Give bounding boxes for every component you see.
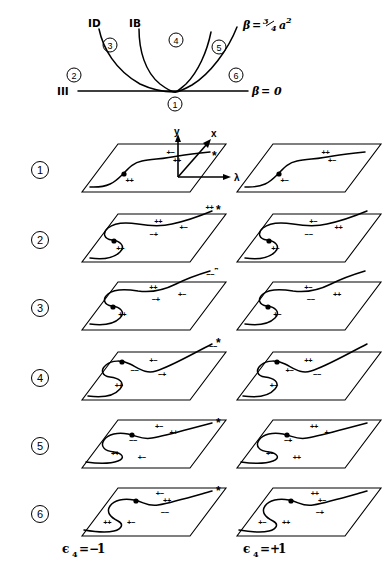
- plane-parallelogram: [82, 144, 226, 192]
- sign-label: ++: [116, 244, 125, 253]
- panel-row1-left: *+−++++: [60, 130, 230, 202]
- svg-text:1: 1: [278, 542, 286, 556]
- sign-label: +−: [258, 518, 267, 527]
- bifurcation-point: [274, 359, 279, 364]
- row-number-label: 3: [37, 302, 43, 314]
- plane-parallelogram: [237, 420, 381, 468]
- row-number-label: 4: [37, 372, 43, 384]
- svg-text:= 0: = 0: [261, 85, 282, 98]
- sign-label: −−: [131, 366, 140, 375]
- sign-label: +−: [178, 290, 187, 299]
- beta-upper-label: β = 3 4 a 2: [242, 15, 292, 33]
- svg-text:3: 3: [107, 41, 112, 51]
- svg-text:ϵ: ϵ: [243, 542, 250, 556]
- row-number-5: 5: [22, 428, 62, 468]
- plane-parallelogram: [237, 488, 381, 536]
- row-number-2: 2: [22, 222, 62, 262]
- boundary-label-b: IB: [129, 17, 141, 29]
- bifurcation-point: [110, 304, 115, 309]
- panel-row5-left: *+−++−−+++−: [60, 406, 230, 478]
- sign-label: ++: [115, 381, 124, 390]
- sign-label: −+: [152, 295, 161, 304]
- svg-text:ϵ: ϵ: [62, 542, 69, 556]
- sign-label: +−: [266, 449, 275, 458]
- panel-row5-right: +++−−++−++: [215, 406, 385, 478]
- sign-label: −+: [158, 370, 167, 379]
- row-number-6: 6: [22, 496, 62, 536]
- sign-label: ++: [334, 223, 343, 232]
- bifurcation-point: [133, 498, 138, 503]
- sign-label: −+: [150, 230, 159, 239]
- svg-text:4: 4: [271, 23, 277, 33]
- solution-curve: [241, 423, 367, 463]
- plane-parallelogram: [82, 420, 226, 468]
- svg-text:4: 4: [72, 549, 78, 559]
- sign-label: ++: [310, 422, 319, 431]
- panel-row1-right: +++−+−: [215, 130, 385, 202]
- svg-text:4: 4: [253, 549, 259, 559]
- sign-label: +−: [328, 156, 337, 165]
- footer-right: ϵ 4 =+ 1: [243, 542, 286, 559]
- region-label-4: 4: [169, 33, 183, 47]
- svg-text:=: =: [252, 19, 261, 32]
- solution-curve: [90, 271, 210, 325]
- sign-label: +−: [138, 453, 147, 462]
- svg-text:4: 4: [173, 36, 178, 46]
- sign-label: ++: [282, 518, 291, 527]
- row-number-label: 6: [37, 508, 43, 520]
- sign-label: ++: [205, 203, 214, 212]
- plane-parallelogram: [237, 144, 381, 192]
- sign-label: ++: [304, 356, 313, 365]
- solution-curve: [245, 271, 365, 325]
- sign-label: +−: [273, 310, 282, 319]
- sign-label: ++: [111, 449, 120, 458]
- sign-label: −+: [316, 508, 325, 517]
- row-number-label: 2: [37, 234, 43, 246]
- solution-curve: [86, 423, 212, 463]
- sign-label: ++: [173, 156, 182, 165]
- plane-parallelogram: [82, 488, 226, 536]
- sign-label: −−: [305, 230, 314, 239]
- sign-label: −+: [284, 436, 293, 445]
- bifurcation-point: [265, 304, 270, 309]
- sign-label: +−: [324, 428, 333, 437]
- sign-label: +−: [270, 381, 279, 390]
- bifurcation-point: [288, 498, 293, 503]
- svg-text:1: 1: [172, 100, 177, 110]
- sign-label: ++: [169, 428, 178, 437]
- sign-label: −−: [161, 508, 170, 517]
- svg-text:β: β: [251, 85, 260, 98]
- sign-label: ++: [103, 518, 112, 527]
- row-number-label: 5: [37, 440, 43, 452]
- svg-text:6: 6: [233, 71, 238, 81]
- boundary-curve-outer-right: [175, 27, 237, 92]
- bifurcation-point: [111, 238, 116, 243]
- sign-label: +−: [155, 422, 164, 431]
- svg-text:2: 2: [285, 15, 292, 25]
- panel-row4-right: +++−−−+−: [215, 338, 385, 410]
- sign-label: −−: [206, 270, 215, 279]
- sign-label: ++: [163, 496, 172, 505]
- sign-label: +−: [286, 366, 295, 375]
- boundary-label-d: ID: [88, 17, 101, 29]
- sign-label: +−: [309, 217, 318, 226]
- sign-label: +−: [304, 283, 313, 292]
- sign-label: +−: [271, 244, 280, 253]
- sign-label: −−: [307, 295, 316, 304]
- panel-row3-left: *+++−−+++−−: [60, 268, 230, 340]
- panel-row3-right: +−++−−+−: [215, 268, 385, 340]
- sign-label: −−: [129, 436, 138, 445]
- region-label-2: 2: [67, 68, 81, 82]
- region-label-6: 6: [229, 68, 243, 82]
- row-number-1: 1: [22, 152, 62, 192]
- boundary-curve-inner-right: [175, 32, 211, 92]
- sign-label: +−: [318, 496, 327, 505]
- panel-row2-right: +−++−−+−: [215, 200, 385, 272]
- region-label-5: 5: [212, 40, 226, 54]
- sign-label: ++: [125, 176, 134, 185]
- svg-text:5: 5: [216, 43, 221, 53]
- row-number-3: 3: [22, 290, 62, 330]
- column-footers: ϵ 4 =− 1 ϵ 4 =+ 1: [0, 535, 356, 575]
- sign-label: ++: [149, 283, 158, 292]
